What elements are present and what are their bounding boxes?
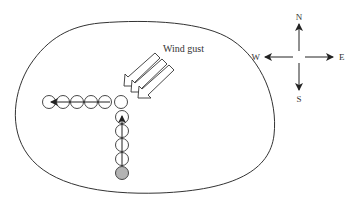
diagram-canvas: Wind gust N S E W xyxy=(0,0,358,201)
compass-e-label: E xyxy=(339,52,345,62)
start-circle xyxy=(116,167,129,180)
corner-circle xyxy=(115,96,128,109)
westward-path xyxy=(43,96,128,109)
wind-gust-label: Wind gust xyxy=(163,43,204,54)
compass-n-label: N xyxy=(296,12,303,22)
northward-path xyxy=(116,111,129,180)
compass-s-label: S xyxy=(296,94,301,104)
region-outline xyxy=(15,21,274,193)
compass-w-label: W xyxy=(252,52,261,62)
compass-rose xyxy=(265,24,333,90)
wind-gust-arrows xyxy=(124,53,174,98)
